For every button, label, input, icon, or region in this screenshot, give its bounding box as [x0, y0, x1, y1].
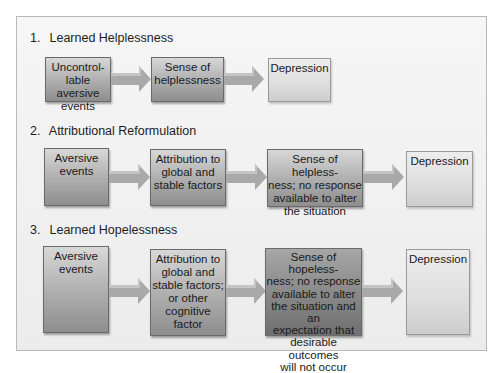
box-line: Aversive [45, 152, 108, 165]
box-line: available to alter [268, 192, 362, 205]
section-title: Learned Helplessness [49, 31, 173, 45]
section-number: 1. [30, 31, 46, 45]
box-line: the situation [268, 205, 362, 218]
box-aversive-events: Aversive events [44, 148, 109, 206]
box-depression: Depression [406, 151, 473, 207]
arrow-right-icon [109, 164, 150, 190]
box-depression: Depression [268, 58, 331, 102]
box-sense-of-helplessness: Sense of helplessness [151, 57, 224, 102]
box-line: Aversive [44, 250, 108, 263]
box-line: global and [151, 266, 225, 279]
box-aversive-events: Aversive events [43, 246, 109, 333]
box-line: global and [151, 166, 225, 179]
box-line: events [45, 165, 108, 178]
section-title: Learned Hopelessness [49, 223, 177, 237]
arrow-right-icon [226, 164, 267, 190]
box-attribution-or-cognitive-factor: Attribution to global and stable factors… [150, 249, 226, 336]
box-line: Depression [407, 155, 472, 168]
arrow-right-icon [363, 164, 404, 190]
box-depression: Depression [406, 249, 470, 335]
arrow-right-icon [362, 278, 403, 304]
box-line: Depression [407, 253, 469, 266]
section-heading-learned-helplessness: 1. Learned Helplessness [30, 31, 173, 45]
box-sense-of-helplessness-no-response: Sense of helpless- ness; no response ava… [267, 149, 363, 207]
box-line: Sense of helpless- [268, 153, 362, 179]
arrow-right-icon [224, 66, 264, 92]
box-line: cognitive [151, 305, 225, 318]
box-line: lable aversive [46, 74, 110, 100]
section-heading-learned-hopelessness: 3. Learned Hopelessness [30, 223, 177, 237]
box-line: stable factors [151, 179, 225, 192]
arrow-right-icon [111, 66, 151, 92]
section-heading-attributional-reformulation: 2. Attributional Reformulation [30, 124, 196, 138]
box-line: will not occur [266, 361, 361, 373]
box-line: factor [151, 318, 225, 331]
box-line: Attribution to [151, 253, 225, 266]
box-line: stable factors; [151, 279, 225, 292]
box-line: events [46, 100, 110, 113]
box-line: or other [151, 292, 225, 305]
box-sense-of-hopelessness: Sense of hopeless- ness; no response ava… [265, 248, 362, 336]
box-line: helplessness [152, 74, 223, 87]
arrow-right-icon [226, 278, 266, 304]
box-line: desirable outcomes [266, 336, 361, 360]
box-line: Depression [269, 62, 330, 75]
box-attribution-global-stable: Attribution to global and stable factors [150, 149, 226, 206]
box-line: ness; no response [268, 179, 362, 192]
section-title: Attributional Reformulation [49, 124, 196, 138]
box-line: expectation that [266, 324, 361, 336]
box-uncontrollable-aversive-events: Uncontrol- lable aversive events [45, 57, 111, 102]
section-number: 2. [30, 124, 46, 138]
box-line: available to alter [266, 288, 361, 300]
box-line: Uncontrol- [46, 61, 110, 74]
box-line: ness; no response [266, 275, 361, 287]
box-line: the situation and an [266, 300, 361, 324]
box-line: events [44, 263, 108, 276]
box-line: Attribution to [151, 153, 225, 166]
arrow-right-icon [109, 278, 150, 304]
box-line: Sense of [152, 61, 223, 74]
section-number: 3. [30, 223, 46, 237]
box-line: Sense of hopeless- [266, 251, 361, 275]
